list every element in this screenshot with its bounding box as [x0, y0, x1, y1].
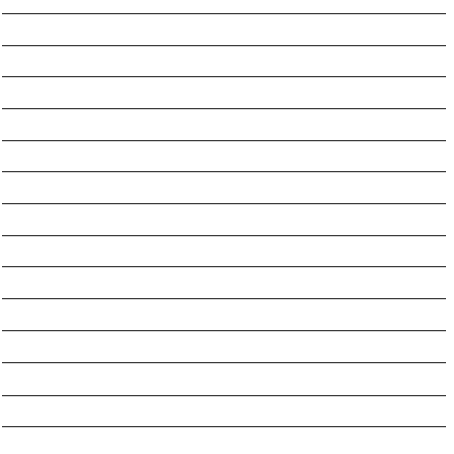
ruled-line	[2, 330, 446, 331]
ruled-line	[2, 426, 446, 427]
ruled-line	[2, 76, 446, 77]
ruled-line	[2, 45, 446, 46]
ruled-line	[2, 395, 446, 396]
ruled-line	[2, 235, 446, 236]
ruled-line	[2, 298, 446, 299]
lined-paper-sheet	[0, 0, 454, 454]
ruled-line	[2, 13, 446, 14]
ruled-line	[2, 108, 446, 109]
ruled-line	[2, 203, 446, 204]
ruled-line	[2, 266, 446, 267]
ruled-line	[2, 140, 446, 141]
ruled-line	[2, 362, 446, 363]
ruled-line	[2, 171, 446, 172]
